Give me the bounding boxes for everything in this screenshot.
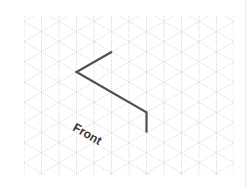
page-edge-divider [245, 0, 246, 187]
front-edge-outline [77, 52, 147, 133]
isometric-grid-canvas [0, 0, 247, 187]
isometric-grid [24, 0, 234, 187]
